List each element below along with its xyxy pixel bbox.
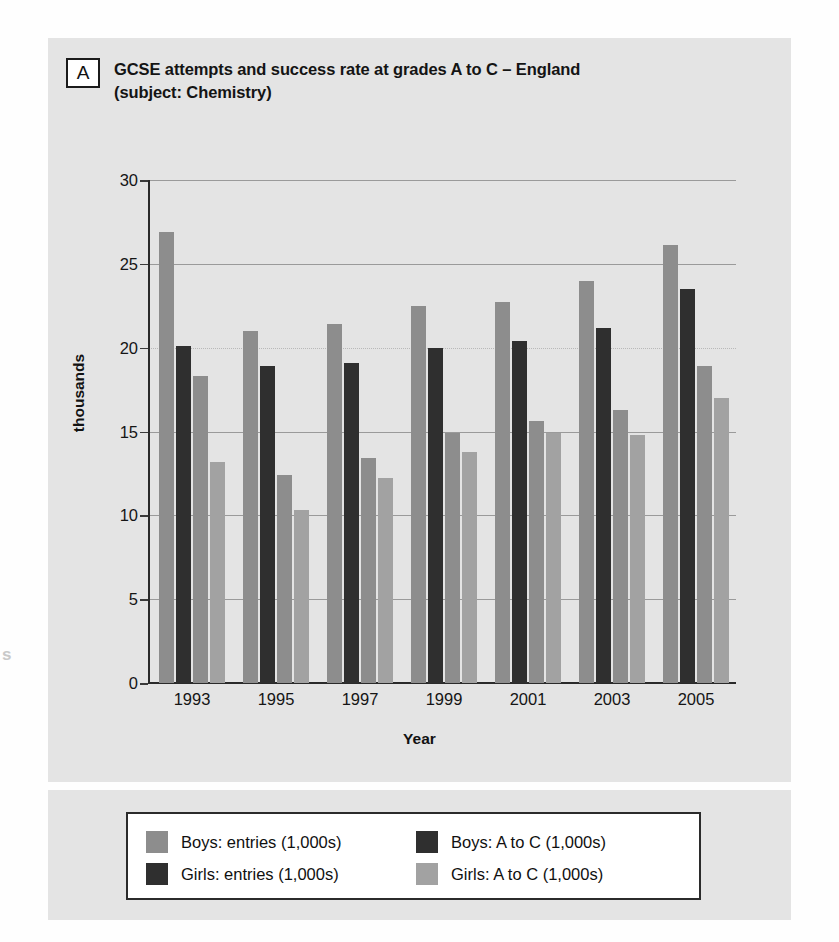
- bar: [193, 376, 209, 683]
- chart-panel: A GCSE attempts and success rate at grad…: [48, 38, 791, 782]
- page-root: s A GCSE attempts and success rate at gr…: [0, 0, 839, 942]
- x-tick-2005: 2005: [678, 690, 715, 709]
- bar-group-1995: [243, 180, 310, 683]
- bar: [294, 510, 310, 683]
- bar: [697, 366, 713, 683]
- bar: [243, 331, 259, 683]
- bar: [361, 458, 377, 683]
- legend-item: Boys: A to C (1,000s): [416, 831, 681, 853]
- bars-layer: [148, 180, 736, 683]
- bar: [260, 366, 276, 683]
- legend-box: Boys: entries (1,000s)Boys: A to C (1,00…: [126, 812, 701, 900]
- x-axis-label: Year: [48, 730, 791, 748]
- bar: [445, 433, 461, 683]
- y-tickmark-30: [140, 180, 148, 182]
- bar-group-1997: [327, 180, 394, 683]
- y-axis-tick-labels: 051015202530: [104, 38, 138, 782]
- x-tick-1993: 1993: [174, 690, 211, 709]
- legend-swatch-icon: [416, 863, 438, 885]
- legend-swatch-icon: [146, 863, 168, 885]
- plot-area: thousands 051015202530 19931995199719992…: [48, 38, 791, 782]
- legend-label: Girls: entries (1,000s): [181, 865, 339, 884]
- y-tick-15: 15: [104, 422, 138, 441]
- bar-group-1999: [411, 180, 478, 683]
- y-tick-20: 20: [104, 338, 138, 357]
- bar: [596, 328, 612, 683]
- legend-items: Boys: entries (1,000s)Boys: A to C (1,00…: [146, 826, 681, 890]
- bar: [663, 245, 679, 683]
- bar: [344, 363, 360, 683]
- y-tickmark-25: [140, 264, 148, 266]
- x-tick-2001: 2001: [510, 690, 547, 709]
- y-tickmark-15: [140, 432, 148, 434]
- bar-group-1993: [159, 180, 226, 683]
- y-tickmark-0: [140, 683, 148, 685]
- legend-label: Boys: A to C (1,000s): [451, 833, 606, 852]
- bar: [176, 346, 192, 683]
- bar: [411, 306, 427, 683]
- bar: [613, 410, 629, 683]
- legend-item: Girls: entries (1,000s): [146, 863, 416, 885]
- bar: [428, 348, 444, 683]
- x-tick-1995: 1995: [258, 690, 295, 709]
- y-tick-30: 30: [104, 171, 138, 190]
- bar: [512, 341, 528, 683]
- bar: [546, 433, 562, 683]
- legend-swatch-icon: [416, 831, 438, 853]
- bar: [714, 398, 730, 683]
- bar: [630, 435, 646, 683]
- bar: [378, 478, 394, 683]
- bar-group-2001: [495, 180, 562, 683]
- legend-label: Boys: entries (1,000s): [181, 833, 342, 852]
- y-tickmark-10: [140, 515, 148, 517]
- y-tickmark-20: [140, 348, 148, 350]
- bar: [495, 302, 511, 683]
- bar: [210, 462, 226, 683]
- y-tick-25: 25: [104, 254, 138, 273]
- x-tick-2003: 2003: [594, 690, 631, 709]
- y-tick-5: 5: [104, 590, 138, 609]
- bar: [277, 475, 293, 683]
- y-tickmark-5: [140, 599, 148, 601]
- bar-group-2005: [663, 180, 730, 683]
- legend-item: Girls: A to C (1,000s): [416, 863, 681, 885]
- bar-group-2003: [579, 180, 646, 683]
- x-tick-1997: 1997: [342, 690, 379, 709]
- legend-label: Girls: A to C (1,000s): [451, 865, 603, 884]
- bar: [159, 232, 175, 683]
- legend-swatch-icon: [146, 831, 168, 853]
- legend-panel: Boys: entries (1,000s)Boys: A to C (1,00…: [48, 790, 791, 920]
- bar: [579, 281, 595, 683]
- bar: [327, 324, 343, 683]
- y-tick-10: 10: [104, 506, 138, 525]
- y-tick-0: 0: [104, 674, 138, 693]
- bar: [462, 452, 478, 683]
- scan-edge-artifact: s: [2, 645, 11, 665]
- bar: [680, 289, 696, 683]
- bar: [529, 421, 545, 683]
- y-axis-label: thousands: [70, 354, 88, 432]
- legend-item: Boys: entries (1,000s): [146, 831, 416, 853]
- x-tick-1999: 1999: [426, 690, 463, 709]
